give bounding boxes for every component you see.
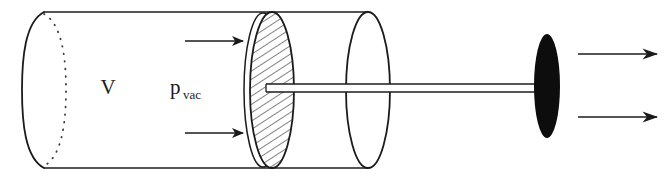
pressure-label-subscript: vac [183, 87, 201, 102]
volume-label: V [100, 75, 115, 99]
vacuum-piston-diagram: V p vac [0, 0, 672, 180]
rod-body [266, 84, 547, 92]
load-disk [534, 34, 560, 138]
pressure-label-base: p [170, 75, 181, 99]
diagram-canvas: V p vac [0, 0, 672, 180]
connecting-rod [266, 84, 549, 92]
